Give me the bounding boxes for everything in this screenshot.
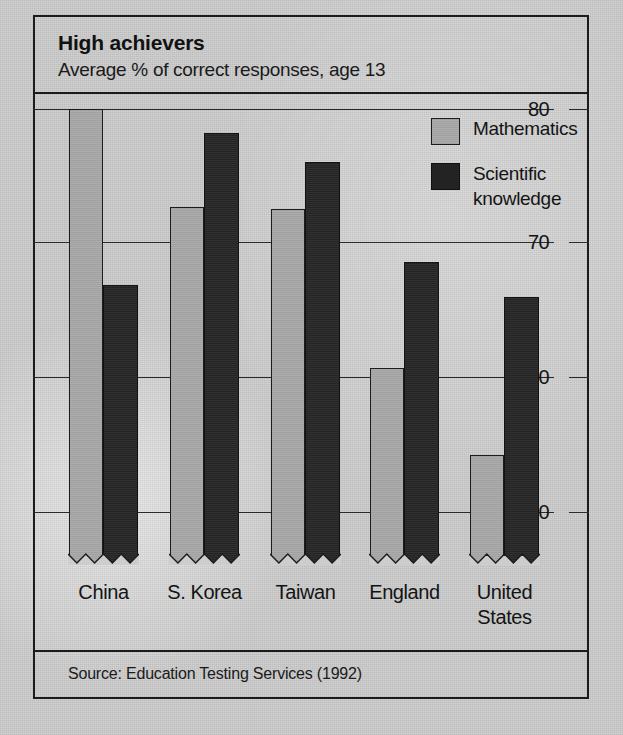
legend-swatch-mathematics-icon <box>431 118 460 145</box>
legend-label-mathematics: Mathematics <box>473 116 577 141</box>
axis-break-zigzag-china <box>68 550 139 565</box>
tick-stub-70 <box>569 242 589 243</box>
plot-area: 80 70 60 50 <box>33 94 589 564</box>
chart-title: High achievers <box>58 31 589 55</box>
axis-break-zigzag-taiwan <box>270 550 341 565</box>
axis-break-zigzag-england <box>369 550 440 565</box>
chart-subtitle: Average % of correct responses, age 13 <box>58 57 589 82</box>
source-divider <box>33 650 589 652</box>
legend-swatch-scientific-knowledge-icon <box>431 163 460 190</box>
tick-stub-50 <box>569 512 589 513</box>
legend-label-scientific-knowledge-line1: Scientific <box>473 163 546 184</box>
chart-header: High achievers Average % of correct resp… <box>33 15 589 92</box>
legend-label-scientific-knowledge-line2: knowledge <box>473 188 561 209</box>
axis-break-zigzag-skorea <box>169 550 240 565</box>
legend-label-scientific-knowledge: Scientific knowledge <box>473 161 561 211</box>
bar-china-scientific-knowledge[interactable] <box>103 285 138 564</box>
category-axis-labels: China S. Korea Taiwan England United Sta… <box>33 580 589 642</box>
category-label-unitedstates: United States <box>454 580 555 630</box>
legend-item-scientific-knowledge[interactable]: Scientific knowledge <box>431 161 601 211</box>
category-label-china: China <box>53 580 154 605</box>
bar-skorea-mathematics[interactable] <box>170 207 204 564</box>
tick-stub-60 <box>569 377 589 378</box>
category-label-taiwan: Taiwan <box>255 580 356 605</box>
chart-legend: Mathematics Scientific knowledge <box>431 116 601 227</box>
bar-unitedstates-scientific-knowledge[interactable] <box>504 297 539 564</box>
tick-stub-80 <box>569 109 589 110</box>
bar-taiwan-mathematics[interactable] <box>271 209 305 564</box>
source-note: Source: Education Testing Services (1992… <box>68 665 362 683</box>
category-label-unitedstates-line1: United <box>477 581 532 603</box>
category-label-unitedstates-line2: States <box>477 606 531 628</box>
bar-unitedstates-mathematics[interactable] <box>470 455 504 564</box>
legend-item-mathematics[interactable]: Mathematics <box>431 116 601 145</box>
category-label-england: England <box>354 580 455 605</box>
gridline-80 <box>33 109 554 110</box>
bar-taiwan-scientific-knowledge[interactable] <box>305 162 340 564</box>
axis-break-zigzag-unitedstates <box>469 550 540 565</box>
bar-skorea-scientific-knowledge[interactable] <box>204 133 239 564</box>
bar-england-mathematics[interactable] <box>370 368 404 564</box>
category-label-skorea: S. Korea <box>154 580 255 605</box>
bar-england-scientific-knowledge[interactable] <box>404 262 439 564</box>
bar-china-mathematics[interactable] <box>69 109 103 564</box>
ytick-label-70: 70 <box>525 231 552 254</box>
